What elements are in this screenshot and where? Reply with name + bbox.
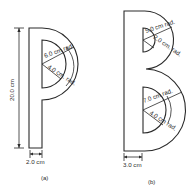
figure-a-stem-width-dimension [30,150,42,158]
figure-a-caption: (a) [41,175,48,181]
b-upper-inner-radius-line [143,40,154,48]
figure-a-stem-width-label: 2.0 cm [26,158,45,165]
figure-b-lower-outer-radius-label: 7.0 cm rad. [142,87,174,104]
figure-a-inner-radius-label: 4.0 cm. rad. [46,63,77,87]
figure-b-upper-inner-radius-label: 2.0 cm. rad. [152,33,183,58]
figure-a-height-dimension [14,28,24,148]
figure-a-height-label: 20.0 cm [8,79,15,101]
figure-b-b-shape [124,11,186,151]
figure-b-lower-inner-radius-label: 4.0 cm rad. [148,109,178,132]
figure-b-stem-width-dimension [124,153,142,161]
figure-b-upper-outer-radius-label: 5.0 cm rad. [144,18,176,34]
letter-shapes-diagram: 20.0 cm 6.0 cm rad. 4.0 cm. rad. 2.0 cm … [0,0,189,195]
figure-b-stem-width-label: 3.0 cm [123,161,142,168]
figure-a-outer-radius-label: 6.0 cm rad. [43,42,75,59]
figure-b-caption: (b) [148,179,155,185]
